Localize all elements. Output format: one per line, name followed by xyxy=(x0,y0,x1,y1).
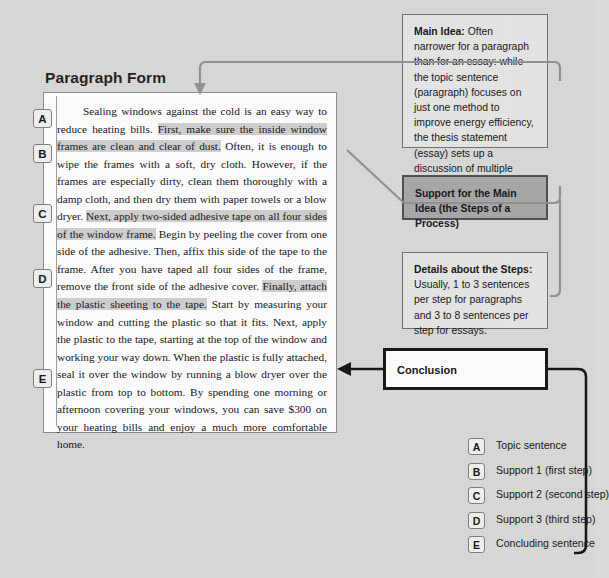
connector-support-diagonal xyxy=(347,150,404,203)
marker-badge-c: C xyxy=(33,204,52,223)
callout-main-idea-body: Often narrower for a paragraph than for … xyxy=(414,26,534,189)
callout-conclusion: Conclusion xyxy=(383,348,548,390)
legend-item: CSupport 2 (second step) xyxy=(468,486,590,511)
marker-badge-b: B xyxy=(33,144,52,163)
legend-badge-b: B xyxy=(468,463,485,480)
paragraph-plain-span: Start by measuring your window and cutti… xyxy=(57,298,327,450)
callout-details: Details about the Steps: Usually, 1 to 3… xyxy=(402,252,548,329)
legend-item: EConcluding sentence xyxy=(468,535,590,560)
marker-spine xyxy=(56,96,57,426)
legend-item: ATopic sentence xyxy=(468,437,590,462)
arrowhead-conclusion xyxy=(337,362,351,376)
connector-details xyxy=(550,200,560,296)
paragraph-body-text: Sealing windows against the cold is an e… xyxy=(57,103,327,454)
callout-support: Support for the Main Idea (the Steps of … xyxy=(402,175,548,220)
callout-details-heading: Details about the Steps: xyxy=(414,264,532,275)
callout-main-idea: Main Idea: Often narrower for a paragrap… xyxy=(402,14,548,148)
legend-item: BSupport 1 (first step) xyxy=(468,462,590,487)
legend-badge-e: E xyxy=(468,536,485,553)
callout-main-idea-heading: Main Idea: xyxy=(414,26,465,37)
marker-badge-e: E xyxy=(33,369,52,388)
legend-label: Concluding sentence xyxy=(496,537,595,549)
marker-badge-a: A xyxy=(33,109,52,128)
legend-badge-a: A xyxy=(468,438,485,455)
legend-label: Support 2 (second step) xyxy=(496,488,609,500)
legend-badge-c: C xyxy=(468,487,485,504)
legend: ATopic sentenceBSupport 1 (first step)CS… xyxy=(468,437,590,560)
callout-details-body: Usually, 1 to 3 sentences per step for p… xyxy=(414,279,529,336)
page-title: Paragraph Form xyxy=(45,69,166,87)
legend-badge-d: D xyxy=(468,512,485,529)
legend-label: Support 3 (third step) xyxy=(496,513,596,525)
legend-item: DSupport 3 (third step) xyxy=(468,511,590,536)
legend-label: Support 1 (first step) xyxy=(496,464,592,476)
marker-badge-d: D xyxy=(33,269,52,288)
legend-label: Topic sentence xyxy=(496,439,567,451)
